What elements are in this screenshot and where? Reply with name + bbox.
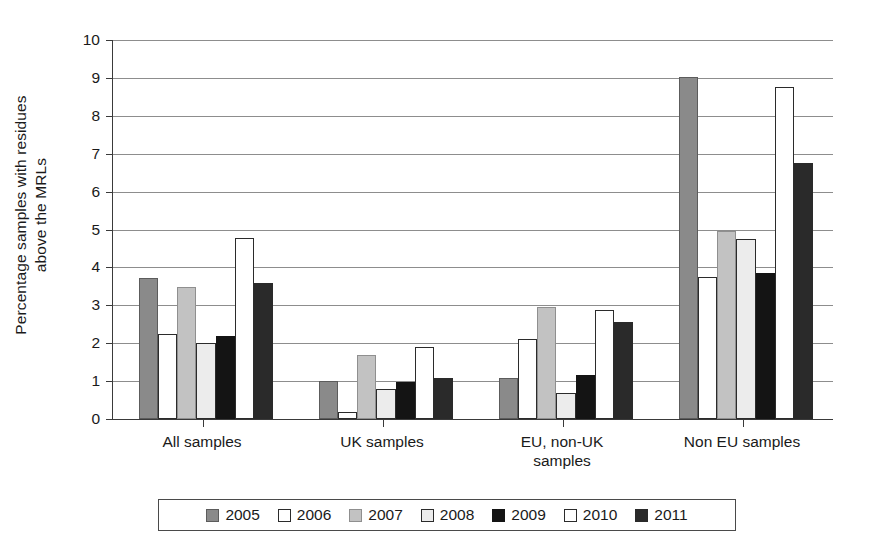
y-tick-label-6: 6 (72, 184, 100, 200)
legend-label-2005: 2005 (225, 507, 259, 523)
bar-all-samples-2007[interactable] (177, 287, 196, 419)
bar-uk-samples-2010[interactable] (415, 347, 434, 419)
y-tick-4 (106, 267, 113, 268)
y-tick-1 (106, 381, 113, 382)
y-tick-label-0: 0 (72, 411, 100, 427)
chart-legend: 2005200620072008200920102011 (158, 499, 736, 531)
bar-group-0 (139, 40, 273, 419)
y-tick-label-5: 5 (72, 222, 100, 238)
y-axis-title-line1: Percentage samples with residues (12, 95, 29, 334)
bar-eu-non-uk-samples-2011[interactable] (614, 322, 633, 419)
x-label-0-line1: All samples (112, 432, 292, 451)
x-label-3-line1: Non EU samples (652, 432, 832, 451)
x-axis-category-labels: All samplesUK samplesEU, non-UKsamplesNo… (112, 432, 832, 480)
bar-uk-samples-2005[interactable] (319, 381, 338, 419)
legend-swatch-2005-icon (206, 509, 219, 522)
y-tick-3 (106, 305, 113, 306)
bar-group-2 (499, 40, 633, 419)
bar-eu-non-uk-samples-2010[interactable] (595, 310, 614, 419)
legend-swatch-2007-icon (349, 509, 362, 522)
bar-uk-samples-2011[interactable] (434, 378, 453, 419)
bar-all-samples-2010[interactable] (235, 238, 254, 419)
y-tick-label-9: 9 (72, 70, 100, 86)
legend-swatch-2009-icon (492, 509, 505, 522)
bar-eu-non-uk-samples-2009[interactable] (576, 375, 595, 419)
x-axis-label-2: EU, non-UKsamples (472, 432, 652, 470)
legend-label-2011: 2011 (654, 507, 687, 523)
y-tick-9 (106, 78, 113, 79)
x-label-2-line1: EU, non-UK (472, 432, 652, 451)
x-axis-label-0: All samples (112, 432, 292, 451)
y-tick-label-4: 4 (72, 259, 100, 275)
bar-all-samples-2011[interactable] (254, 283, 273, 419)
bar-non-eu-samples-2008[interactable] (736, 239, 755, 419)
y-tick-label-8: 8 (72, 108, 100, 124)
y-tick-label-7: 7 (72, 146, 100, 162)
bar-all-samples-2005[interactable] (139, 278, 158, 419)
bar-group-3 (679, 40, 813, 419)
bar-uk-samples-2009[interactable] (396, 382, 415, 419)
legend-label-2009: 2009 (511, 507, 545, 523)
legend-item-2005[interactable]: 2005 (197, 507, 268, 523)
y-tick-label-1: 1 (72, 373, 100, 389)
legend-item-2009[interactable]: 2009 (483, 507, 554, 523)
y-tick-0 (106, 419, 113, 420)
bar-all-samples-2008[interactable] (196, 343, 215, 419)
bar-eu-non-uk-samples-2005[interactable] (499, 378, 518, 419)
legend-item-2011[interactable]: 2011 (626, 507, 696, 523)
legend-label-2008: 2008 (440, 507, 474, 523)
legend-label-2007: 2007 (368, 507, 402, 523)
x-label-2-line2: samples (472, 451, 652, 470)
legend-swatch-2010-icon (564, 509, 577, 522)
legend-item-2006[interactable]: 2006 (269, 507, 340, 523)
y-axis-title-line2: above the MRLs (31, 95, 51, 334)
bar-all-samples-2006[interactable] (158, 334, 177, 419)
bar-eu-non-uk-samples-2008[interactable] (556, 393, 575, 419)
y-tick-10 (106, 40, 113, 41)
legend-swatch-2011-icon (635, 509, 648, 522)
legend-item-2007[interactable]: 2007 (340, 507, 411, 523)
y-tick-7 (106, 154, 113, 155)
bar-all-samples-2009[interactable] (216, 336, 235, 419)
bar-uk-samples-2008[interactable] (376, 389, 395, 419)
y-axis-title: Percentage samples with residues above t… (0, 0, 62, 430)
y-tick-label-2: 2 (72, 335, 100, 351)
gridline-0 (113, 419, 833, 420)
y-tick-6 (106, 192, 113, 193)
x-axis-label-3: Non EU samples (652, 432, 832, 451)
bar-eu-non-uk-samples-2007[interactable] (537, 307, 556, 419)
bar-eu-non-uk-samples-2006[interactable] (518, 339, 537, 419)
bar-group-1 (319, 40, 453, 419)
legend-swatch-2008-icon (421, 509, 434, 522)
x-label-1-line1: UK samples (292, 432, 472, 451)
legend-swatch-2006-icon (278, 509, 291, 522)
legend-item-2010[interactable]: 2010 (555, 507, 626, 523)
x-tick-2 (563, 419, 564, 427)
bar-uk-samples-2006[interactable] (338, 412, 357, 419)
legend-label-2010: 2010 (583, 507, 617, 523)
y-tick-label-3: 3 (72, 297, 100, 313)
bar-non-eu-samples-2006[interactable] (698, 277, 717, 419)
legend-item-2008[interactable]: 2008 (412, 507, 483, 523)
x-tick-1 (383, 419, 384, 427)
bar-non-eu-samples-2009[interactable] (756, 273, 775, 419)
legend-label-2006: 2006 (297, 507, 331, 523)
y-tick-5 (106, 230, 113, 231)
bar-non-eu-samples-2010[interactable] (775, 87, 794, 419)
bar-non-eu-samples-2011[interactable] (794, 163, 813, 419)
y-tick-label-10: 10 (72, 32, 100, 48)
plot-area (112, 40, 833, 419)
y-tick-2 (106, 343, 113, 344)
bar-non-eu-samples-2007[interactable] (717, 231, 736, 419)
bar-chart-figure: Percentage samples with residues above t… (0, 0, 880, 557)
x-tick-3 (743, 419, 744, 427)
x-tick-0 (203, 419, 204, 427)
bar-groups (113, 40, 833, 419)
bar-non-eu-samples-2005[interactable] (679, 77, 698, 419)
x-axis-label-1: UK samples (292, 432, 472, 451)
y-tick-8 (106, 116, 113, 117)
bar-uk-samples-2007[interactable] (357, 355, 376, 419)
